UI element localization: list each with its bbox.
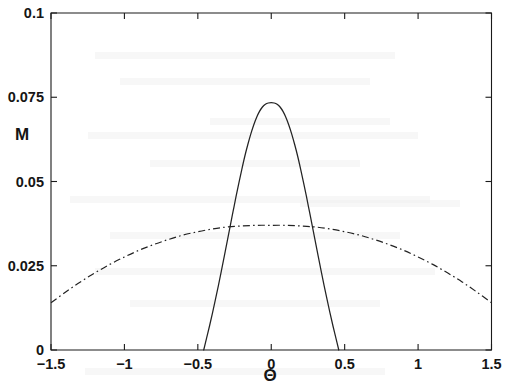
y-tick-label-0: 0	[36, 342, 44, 358]
bleedthrough-smudge-10	[300, 200, 460, 207]
figure-container: −1.5−1−0.500.511.5 00.0250.050.0750.1 Θ …	[0, 0, 507, 389]
bleedthrough-smudge-5	[110, 232, 400, 239]
x-tick-label-0: −1.5	[37, 356, 66, 372]
y-tick-label-3: 0.075	[8, 89, 44, 105]
bleedthrough-smudge-2	[88, 132, 418, 139]
x-tick-label-1: −1	[116, 356, 133, 372]
bleedthrough-smudge-9	[210, 118, 390, 125]
bleedthrough-smudge-7	[130, 300, 380, 307]
bleedthrough-smudge-0	[95, 52, 395, 59]
y-axis-title: M	[15, 125, 29, 144]
x-axis-title: Θ	[263, 366, 276, 385]
y-tick-label-2: 0.05	[16, 174, 44, 190]
x-tick-label-5: 1	[414, 356, 422, 372]
x-tick-label-6: 1.5	[481, 356, 501, 372]
bleedthrough-smudge-1	[120, 78, 370, 85]
y-tick-label-4: 0.1	[24, 5, 44, 21]
line-chart: −1.5−1−0.500.511.5 00.0250.050.0750.1 Θ …	[0, 0, 507, 389]
bleedthrough-smudge-6	[95, 268, 435, 275]
x-tick-label-4: 0.5	[335, 356, 355, 372]
x-tick-label-2: −0.5	[184, 356, 213, 372]
y-tick-label-1: 0.025	[8, 258, 44, 274]
bleedthrough-smudge-3	[150, 160, 360, 167]
